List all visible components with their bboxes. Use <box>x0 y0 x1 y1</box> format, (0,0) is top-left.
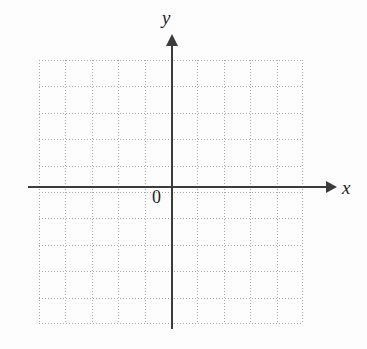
y-axis-label: y <box>162 8 170 27</box>
x-axis-arrow-icon <box>326 181 337 193</box>
coordinate-grid-figure: y x 0 <box>0 0 367 349</box>
origin-label: 0 <box>152 188 161 206</box>
y-axis-arrow-icon <box>166 34 178 46</box>
x-axis-label: x <box>342 178 350 197</box>
y-axis <box>171 44 173 329</box>
x-axis <box>28 186 328 188</box>
